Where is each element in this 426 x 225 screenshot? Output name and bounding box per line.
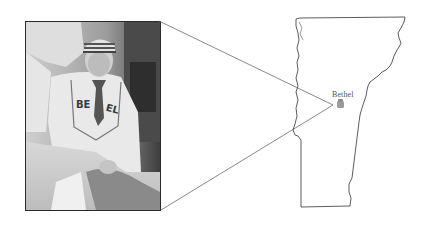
connector-line-bottom	[161, 105, 333, 210]
figure: BE EL Bethel	[0, 0, 426, 225]
connector-line-top	[159, 21, 333, 105]
town-marker-icon	[337, 99, 344, 108]
vermont-outline	[293, 17, 405, 207]
map-overlay	[0, 0, 426, 225]
town-label: Bethel	[332, 90, 353, 99]
